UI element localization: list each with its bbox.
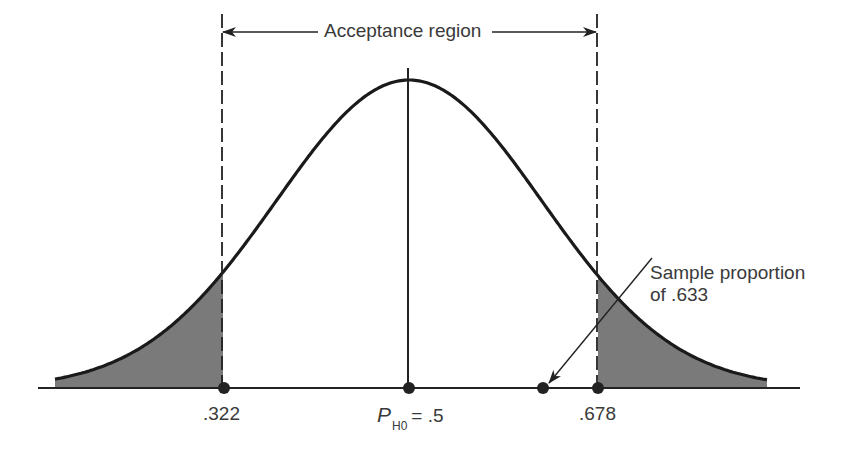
mean-dot	[403, 382, 415, 394]
null-mean-label: PH0= .5	[377, 404, 444, 425]
critical-right-label: .678	[579, 404, 616, 423]
normal-curve-plot	[0, 0, 860, 451]
annotation-line-1: Sample proportion	[650, 262, 805, 284]
normal-curve	[55, 80, 767, 380]
acceptance-region-label: Acceptance region	[322, 21, 483, 40]
annotation-line-2: of .633	[650, 284, 805, 306]
sample-proportion-dot	[537, 382, 549, 394]
left-rejection-region	[55, 272, 223, 388]
mean-subscript: H0	[392, 419, 407, 433]
critical-left-label: .322	[203, 404, 240, 423]
mean-symbol: P	[377, 403, 391, 426]
sample-proportion-annotation: Sample proportion of .633	[650, 262, 805, 306]
hypothesis-test-diagram: Acceptance region .322 .678 PH0= .5 Samp…	[0, 0, 860, 451]
mean-value: = .5	[411, 405, 443, 426]
critical-right-dot	[592, 382, 604, 394]
critical-left-dot	[218, 382, 230, 394]
